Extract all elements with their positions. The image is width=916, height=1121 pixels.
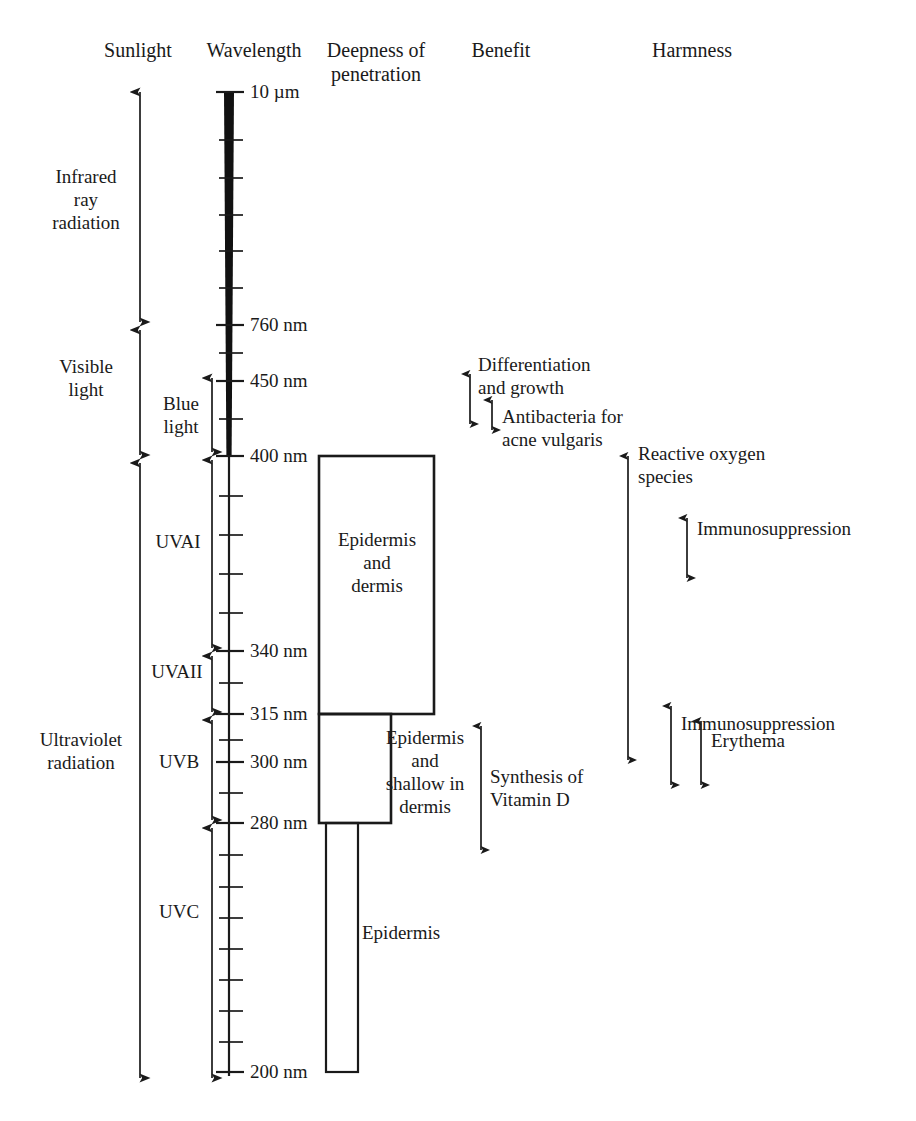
wavelength-tick-label-450nm: 450 nm bbox=[250, 369, 308, 392]
wavelength-tick-label-340nm: 340 nm bbox=[250, 639, 308, 662]
subband-uvc-label: UVC bbox=[148, 900, 210, 923]
harmness-label-immunosuppression-uva: Immunosuppression bbox=[697, 517, 851, 540]
sunlight-band-infrared-label: Infrared ray radiation bbox=[34, 165, 138, 234]
wavelength-thick-bar bbox=[224, 92, 234, 456]
benefit-label-synthesis-of-vitamin-d: Synthesis of Vitamin D bbox=[490, 765, 583, 811]
wavelength-tick-label-300nm: 300 nm bbox=[250, 750, 308, 773]
wavelength-tick-label-760nm: 760 nm bbox=[250, 313, 308, 336]
wavelength-tick-label-400nm: 400 nm bbox=[250, 444, 308, 467]
benefit-label-differentiation-and-growth: Differentiation and growth bbox=[478, 353, 591, 399]
benefit-label-antibacteria-acne-vulgaris: Antibacteria for acne vulgaris bbox=[502, 405, 623, 451]
subband-uvb-label: UVB bbox=[148, 750, 210, 773]
wavelength-tick-label-280nm: 280 nm bbox=[250, 811, 308, 834]
subband-uvaii-label: UVAII bbox=[142, 660, 212, 683]
penetration-label-epidermis-and-dermis: Epidermis and dermis bbox=[324, 528, 430, 597]
wavelength-scale bbox=[216, 92, 244, 1076]
subband-uvai-label: UVAI bbox=[146, 530, 210, 553]
sunlight-band-visible-label: Visible light bbox=[36, 355, 136, 401]
harmness-label-erythema: Erythema bbox=[711, 729, 785, 752]
wavelength-tick-label-200nm: 200 nm bbox=[250, 1060, 308, 1083]
wavelength-tick-label-10um: 10 µm bbox=[250, 80, 299, 103]
penetration-label-epidermis-shallow-dermis: Epidermis and shallow in dermis bbox=[370, 726, 480, 818]
subband-blue-light-label: Blue light bbox=[152, 392, 210, 438]
sunlight-band-ultraviolet-label: Ultraviolet radiation bbox=[24, 728, 138, 774]
figure-canvas: Sunlight Wavelength Deepness of penetrat… bbox=[0, 0, 916, 1121]
harmness-arrows bbox=[628, 456, 701, 785]
penetration-box-epidermis bbox=[326, 823, 358, 1072]
harmness-label-reactive-oxygen-species: Reactive oxygen species bbox=[638, 442, 765, 488]
wavelength-tick-label-315nm: 315 nm bbox=[250, 702, 308, 725]
penetration-label-epidermis: Epidermis bbox=[362, 921, 440, 944]
